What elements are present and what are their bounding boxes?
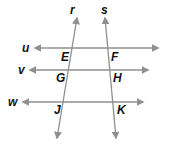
label-s: s [101, 3, 108, 17]
label-r: r [70, 3, 76, 17]
point-label-E: E [61, 50, 70, 64]
label-v: v [18, 63, 26, 77]
point-label-F: F [111, 50, 119, 64]
label-w: w [8, 95, 18, 109]
point-label-H: H [113, 71, 122, 85]
geometry-diagram: r s u v w E F G H J K [0, 0, 173, 144]
point-label-K: K [117, 103, 127, 117]
point-label-J: J [54, 103, 61, 117]
point-label-G: G [56, 71, 65, 85]
label-u: u [22, 41, 30, 55]
